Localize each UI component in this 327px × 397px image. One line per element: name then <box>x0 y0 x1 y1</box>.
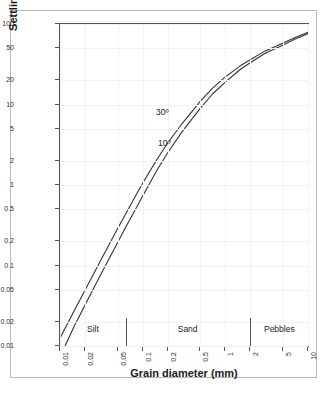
y-tick-label: 100 <box>0 20 14 27</box>
grain-size-zone-divider <box>126 318 127 346</box>
y-tick-label: 0.05 <box>0 285 14 292</box>
gridline-horizontal <box>60 346 308 347</box>
x-tick-mark <box>84 347 85 351</box>
x-tick-label: 5 <box>285 352 292 382</box>
curve-label-10deg: 10º <box>158 138 171 148</box>
x-tick-mark <box>282 347 283 351</box>
x-tick-label: 0.2 <box>170 352 177 382</box>
y-tick-label: 20 <box>0 76 14 83</box>
x-tick-label: 0.01 <box>62 352 69 382</box>
gridline-horizontal <box>60 322 308 323</box>
y-tick-label: 1 <box>0 181 14 188</box>
y-tick-label: 0.2 <box>0 237 14 244</box>
y-axis-title: Settling velocity (cm/s) <box>7 0 19 71</box>
y-tick-label: 2 <box>0 156 14 163</box>
gridline-horizontal <box>60 48 308 49</box>
y-tick-label: 5 <box>0 124 14 131</box>
x-tick-label: 0.02 <box>87 352 94 382</box>
y-tick-label: 0.02 <box>0 317 14 324</box>
grain-size-zone-label-silt: Silt <box>87 324 99 334</box>
curve-label-30deg: 30º <box>156 107 169 117</box>
x-tick-label: 0.5 <box>202 352 209 382</box>
x-tick-label: 10 <box>310 352 317 382</box>
gridline-horizontal <box>60 241 308 242</box>
x-axis-title: Grain diameter (mm) <box>59 367 309 379</box>
grain-size-zone-label-pebbles: Pebbles <box>264 324 295 334</box>
x-tick-label: 2 <box>252 352 259 382</box>
x-tick-mark <box>59 347 60 351</box>
y-tick-label: 0.01 <box>0 342 14 349</box>
gridline-horizontal <box>60 266 308 267</box>
x-tick-mark <box>142 347 143 351</box>
figure-frame: Settling velocity (cm/s) Grain diameter … <box>10 10 317 378</box>
gridline-horizontal <box>60 129 308 130</box>
y-tick-label: 0.5 <box>0 205 14 212</box>
y-tick-label: 10 <box>0 100 14 107</box>
gridline-horizontal <box>60 185 308 186</box>
x-tick-mark <box>167 347 168 351</box>
gridline-horizontal <box>60 105 308 106</box>
x-tick-mark <box>224 347 225 351</box>
y-tick-label: 50 <box>0 44 14 51</box>
x-tick-mark <box>307 347 308 351</box>
x-tick-mark <box>249 347 250 351</box>
gridline-horizontal <box>60 80 308 81</box>
gridline-horizontal <box>60 161 308 162</box>
x-tick-label: 1 <box>227 352 234 382</box>
x-tick-mark <box>117 347 118 351</box>
plot-area: SiltSandPebbles 30º10º <box>59 23 309 347</box>
gridline-horizontal <box>60 209 308 210</box>
x-tick-mark <box>199 347 200 351</box>
gridline-horizontal <box>60 24 308 25</box>
gridline-vertical <box>308 24 309 346</box>
grain-size-zone-divider <box>250 318 251 346</box>
grain-size-zone-label-sand: Sand <box>178 324 198 334</box>
x-tick-label: 0.1 <box>145 352 152 382</box>
x-tick-label: 0.05 <box>120 352 127 382</box>
gridline-horizontal <box>60 290 308 291</box>
y-tick-label: 0.1 <box>0 261 14 268</box>
